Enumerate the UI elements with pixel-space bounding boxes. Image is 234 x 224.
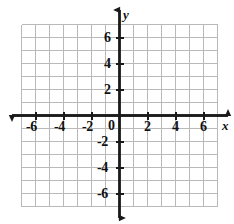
- y-tick-label--4: -4: [97, 161, 108, 175]
- coordinate-grid-svg: [0, 0, 234, 224]
- x-tick-label--4: -4: [54, 120, 65, 134]
- x-tick-label--6: -6: [26, 120, 37, 134]
- origin-label: 0: [108, 119, 115, 133]
- y-tick-label-6: 6: [104, 31, 111, 45]
- x-axis-label: x: [222, 119, 229, 132]
- y-tick-label--2: -2: [97, 135, 108, 149]
- y-tick-label--6: -6: [97, 187, 108, 201]
- coordinate-plane-figure: -6 -4 -2 2 4 6 6 4 2 -2 -4 -6 0 y x: [0, 0, 234, 224]
- y-axis-label: y: [123, 8, 129, 21]
- x-tick-label-6: 6: [200, 120, 207, 134]
- x-tick-label-4: 4: [172, 120, 179, 134]
- x-tick-label--2: -2: [82, 120, 93, 134]
- x-tick-label-2: 2: [144, 120, 151, 134]
- y-tick-label-2: 2: [104, 83, 111, 97]
- y-tick-label-4: 4: [104, 57, 111, 71]
